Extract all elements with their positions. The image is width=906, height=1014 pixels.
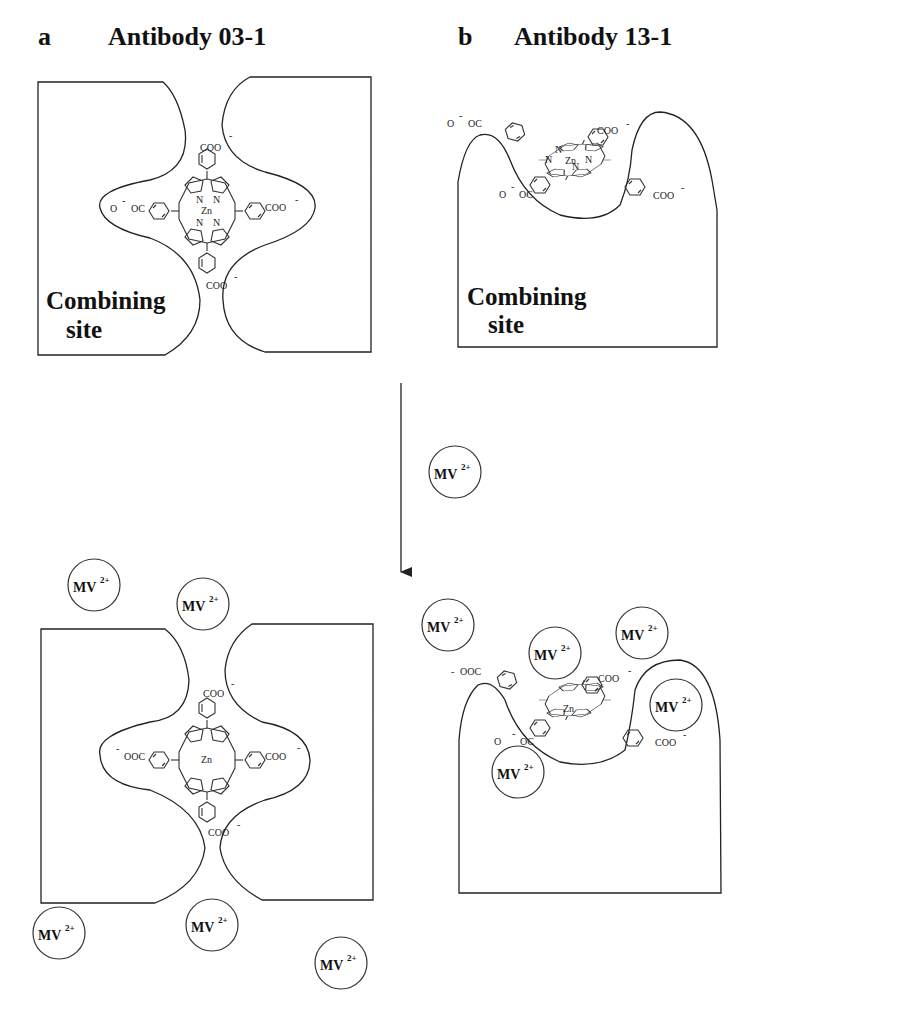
charge: - xyxy=(234,271,237,282)
svg-text:MV: MV xyxy=(182,599,205,614)
ooc-upper-left-b2: OOC xyxy=(460,666,481,677)
svg-text:MV: MV xyxy=(73,580,96,595)
coo-top-a1: COO xyxy=(200,142,221,153)
svg-text:2+: 2+ xyxy=(347,953,357,963)
mv-ion: MV2+ xyxy=(177,578,229,630)
combining-site-label-b: Combining xyxy=(467,283,587,310)
mv-ion: MV2+ xyxy=(33,907,85,959)
svg-text:2+: 2+ xyxy=(682,695,692,705)
zn-atom-a2: Zn xyxy=(201,754,212,765)
svg-text:MV: MV xyxy=(534,648,557,663)
mv-ion: MV2+ xyxy=(529,627,581,679)
antibody-a-right-lobe xyxy=(222,77,371,352)
charge: - xyxy=(229,130,232,141)
panel-b-antibody-before: Zn N N N N O - OC COO - O - OC COO - Com… xyxy=(447,110,717,347)
svg-text:2+: 2+ xyxy=(100,575,110,585)
n-atom: N xyxy=(196,217,203,228)
charge: - xyxy=(683,729,686,740)
coo-right-b2: COO xyxy=(655,737,676,748)
porphyrin-b-after xyxy=(530,680,621,720)
mv-ion: MV2+ xyxy=(616,607,668,659)
svg-text:MV: MV xyxy=(655,700,678,715)
antibody-a-right-lobe-after xyxy=(220,624,373,900)
charge: - xyxy=(511,181,514,192)
charge: - xyxy=(626,118,629,129)
svg-text:2+: 2+ xyxy=(648,623,658,633)
charge: - xyxy=(116,743,119,754)
oc-left-a1: OC xyxy=(131,203,145,214)
charge: - xyxy=(512,728,515,739)
svg-text:MV: MV xyxy=(320,958,343,973)
mv-ion-reagent: MV 2+ xyxy=(429,446,481,498)
charge: - xyxy=(451,666,454,677)
n-atom: N xyxy=(196,194,203,205)
svg-text:2+: 2+ xyxy=(461,462,471,472)
oc-lower-left-b1: OC xyxy=(519,189,533,200)
panel-a-antibody-before: Zn N N N N COO - COO - COO - O - OC Comb… xyxy=(38,77,371,355)
mv-ion: MV2+ xyxy=(492,746,544,798)
svg-text:MV: MV xyxy=(621,628,644,643)
coo-bottom-a1: COO xyxy=(206,280,227,291)
coo-right-a2: COO xyxy=(265,751,286,762)
coo-top-right-b2: COO xyxy=(598,673,619,684)
combining-site-label-a: site xyxy=(66,316,102,343)
svg-text:2+: 2+ xyxy=(454,615,464,625)
coo-bottom-a2: COO xyxy=(208,827,229,838)
zn-atom-a1: Zn xyxy=(201,205,212,216)
svg-text:2+: 2+ xyxy=(524,762,534,772)
o-lower-left-b2: O xyxy=(494,736,501,747)
n-atom: N xyxy=(213,217,220,228)
charge: - xyxy=(122,195,125,206)
charge: - xyxy=(231,678,234,689)
oc-upper-left-b1: OC xyxy=(468,118,482,129)
coo-right-b1: COO xyxy=(653,190,674,201)
n-atom: N xyxy=(572,161,579,172)
mv-ion: MV2+ xyxy=(650,679,702,731)
mv-ion: MV2+ xyxy=(315,937,367,989)
charge: - xyxy=(681,182,684,193)
n-atom: N xyxy=(585,154,592,165)
o-lower-left-b1: O xyxy=(499,189,506,200)
charge: - xyxy=(628,665,631,676)
svg-text:MV: MV xyxy=(427,620,450,635)
svg-text:2+: 2+ xyxy=(65,923,75,933)
o-upper-left-b1: O xyxy=(447,118,454,129)
svg-text:2+: 2+ xyxy=(209,594,219,604)
combining-site-label-a: Combining xyxy=(46,287,166,314)
combining-site-label-b: site xyxy=(488,311,524,338)
mv-ion: MV2+ xyxy=(186,899,238,951)
svg-text:MV: MV xyxy=(38,928,61,943)
panel-a-antibody-after: Zn COO - COO - COO - - OOC xyxy=(41,624,373,903)
mv-ion: MV2+ xyxy=(422,599,474,651)
svg-text:2+: 2+ xyxy=(561,643,571,653)
charge: - xyxy=(459,110,462,121)
n-atom: N xyxy=(555,144,562,155)
svg-text:MV: MV xyxy=(434,467,457,482)
mv-ions-panel-b: MV2+ MV2+ MV2+ MV2+ MV2+ xyxy=(422,599,702,798)
charge: - xyxy=(295,194,298,205)
antibody-a-left-lobe xyxy=(38,82,200,355)
svg-text:2+: 2+ xyxy=(218,915,228,925)
oc-lower-left-b2: OC xyxy=(520,736,534,747)
ooc-left-a2: OOC xyxy=(124,751,145,762)
n-atom: N xyxy=(213,194,220,205)
zn-atom-b2: Zn xyxy=(563,703,574,714)
svg-text:MV: MV xyxy=(191,920,214,935)
antibody-porphyrin-diagram: Zn N N N N COO - COO - COO - O - OC Comb… xyxy=(0,0,906,1014)
coo-top-right-b1: COO xyxy=(597,125,618,136)
n-atom: N xyxy=(545,154,552,165)
o-left-a1: O xyxy=(110,203,117,214)
coo-top-a2: COO xyxy=(203,688,224,699)
charge: - xyxy=(297,742,300,753)
charge: - xyxy=(237,819,240,830)
coo-right-a1: COO xyxy=(265,202,286,213)
svg-text:MV: MV xyxy=(497,767,520,782)
mv-ion: MV2+ xyxy=(68,559,120,611)
antibody-a-left-lobe-after xyxy=(41,629,205,903)
